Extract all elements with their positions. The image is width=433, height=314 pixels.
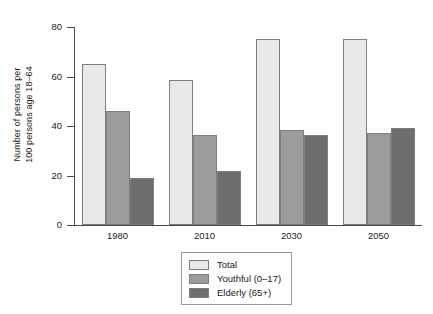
bar-youthful-0-17-2050	[367, 133, 391, 225]
chart-figure: Number of persons per 100 persons age 18…	[0, 0, 433, 314]
bar-total-2010	[169, 80, 193, 225]
bar-youthful-0-17-1980	[106, 111, 130, 225]
x-axis-tick-label: 2010	[175, 231, 235, 241]
bar-elderly-65-1980	[130, 178, 154, 225]
y-axis-tick	[67, 176, 74, 177]
y-axis-tick-label: 60	[10, 72, 62, 82]
legend-swatch-icon	[189, 260, 209, 270]
y-axis-tick-label: 80	[10, 22, 62, 32]
y-axis-tick-label: 0	[10, 220, 62, 230]
bar-total-2050	[343, 39, 367, 225]
bar-total-2030	[256, 39, 280, 225]
y-axis-title: Number of persons per 100 persons age 18…	[0, 0, 46, 228]
bar-elderly-65-2050	[391, 128, 415, 225]
x-axis-tick-label: 2050	[349, 231, 409, 241]
bar-youthful-0-17-2030	[280, 130, 304, 225]
x-axis-tick-label: 2030	[262, 231, 322, 241]
legend-item-label: Youthful (0–17)	[217, 274, 281, 284]
y-axis-tick	[67, 126, 74, 127]
plot-area	[74, 27, 422, 225]
chart-legend: TotalYouthful (0–17)Elderly (65+)	[181, 252, 292, 305]
y-axis-tick-label: 40	[10, 121, 62, 131]
y-axis-tick	[67, 225, 74, 226]
y-axis-tick	[67, 77, 74, 78]
bar-elderly-65-2030	[304, 135, 328, 225]
legend-item: Elderly (65+)	[189, 286, 281, 299]
legend-item-label: Total	[217, 260, 237, 270]
legend-item-label: Elderly (65+)	[217, 288, 271, 298]
legend-item: Total	[189, 258, 281, 271]
legend-item: Youthful (0–17)	[189, 272, 281, 285]
x-axis-tick-label: 1980	[88, 231, 148, 241]
bar-total-1980	[82, 64, 106, 225]
bar-youthful-0-17-2010	[193, 135, 217, 225]
legend-swatch-icon	[189, 274, 209, 284]
legend-swatch-icon	[189, 288, 209, 298]
bar-elderly-65-2010	[217, 171, 241, 225]
y-axis-tick	[67, 27, 74, 28]
x-axis-line	[74, 225, 422, 226]
y-axis-tick-label: 20	[10, 171, 62, 181]
